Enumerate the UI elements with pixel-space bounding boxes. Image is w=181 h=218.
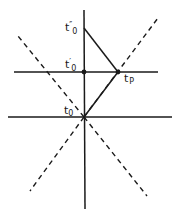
- light-cone-left-future: [18, 36, 84, 117]
- light-cone-left-past: [30, 117, 84, 191]
- signal-return: [84, 28, 118, 72]
- label-t0-double-prime: t″0: [65, 21, 77, 36]
- point-t0-prime: [82, 70, 87, 75]
- label-t0: t0: [64, 104, 73, 118]
- light-cone-right-past: [84, 117, 147, 196]
- labels: t″0 t′0 tP t0: [64, 21, 134, 118]
- point-tp: [116, 70, 121, 75]
- dashed-light-cone: [18, 18, 158, 196]
- label-tp: tP: [124, 72, 134, 86]
- label-t0-prime: t′0: [65, 58, 76, 73]
- vertical-axis: [84, 10, 85, 209]
- spacetime-diagram: t″0 t′0 tP t0: [0, 0, 181, 218]
- solid-lines: [8, 10, 172, 209]
- signal-emit: [84, 72, 118, 117]
